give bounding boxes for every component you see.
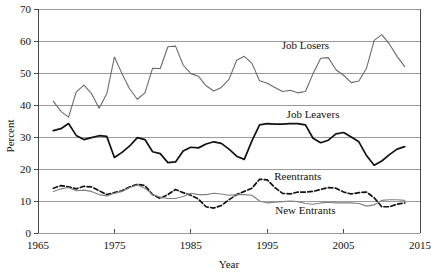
y-tick-label: 50 — [20, 67, 32, 79]
x-axis-title: Year — [219, 258, 240, 270]
x-tick-label: 2015 — [409, 239, 431, 251]
series-label-job-losers: Job Losers — [282, 39, 329, 51]
line-chart: 010203040506070 196519751985199520052015… — [0, 0, 431, 273]
y-tick-label: 20 — [20, 163, 32, 175]
series-label-new-entrants: New Entrants — [275, 204, 335, 216]
x-tick-label: 1995 — [256, 239, 279, 251]
y-tick-label: 0 — [26, 227, 32, 239]
series-label-job-leavers: Job Leavers — [287, 108, 340, 120]
y-axis-title: Percent — [4, 120, 16, 153]
y-tick-label: 60 — [20, 35, 32, 47]
series-label-reentrants: Reentrants — [274, 170, 321, 182]
x-tick-label: 1985 — [180, 239, 203, 251]
y-tick-label: 10 — [20, 195, 32, 207]
x-tick-label: 1965 — [27, 239, 50, 251]
y-tick-label: 30 — [20, 131, 32, 143]
x-tick-label: 2005 — [333, 239, 356, 251]
chart-container: 010203040506070 196519751985199520052015… — [0, 0, 431, 273]
y-tick-label: 70 — [20, 3, 32, 15]
y-tick-label: 40 — [20, 99, 32, 111]
x-tick-label: 1975 — [103, 239, 126, 251]
